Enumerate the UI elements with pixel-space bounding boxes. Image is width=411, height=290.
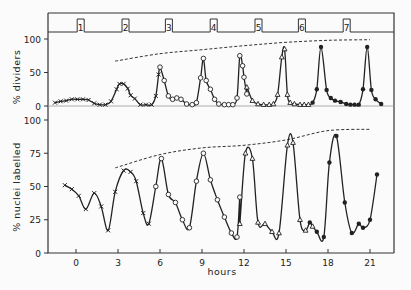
y-tick-label: 0 (35, 249, 41, 259)
x-tick-label: 9 (199, 258, 205, 268)
triangle-marker (291, 140, 296, 144)
o-marker (208, 178, 213, 183)
triangle-marker (292, 101, 297, 105)
filled-marker (350, 231, 354, 235)
triangle-marker (263, 221, 268, 225)
filled-marker (338, 100, 342, 104)
o-marker (231, 102, 236, 107)
chart-figure: 1234567 050100 0255075100036912151821 % … (0, 0, 411, 290)
filled-marker (357, 222, 361, 226)
o-marker (179, 97, 184, 102)
triangle-marker (256, 101, 261, 105)
pulse-label: 2 (123, 23, 129, 33)
x-tick-label: 0 (73, 258, 79, 268)
o-marker (159, 156, 164, 161)
o-marker (238, 195, 243, 200)
o-marker (217, 102, 222, 107)
filled-marker (348, 102, 352, 106)
o-marker (201, 151, 206, 156)
filled-marker (310, 100, 314, 104)
y-tick-label: 100 (24, 35, 41, 45)
filled-marker (334, 134, 338, 138)
o-marker (187, 225, 192, 230)
y-tick-label: 75 (30, 149, 41, 159)
o-marker (240, 64, 245, 69)
o-marker (215, 198, 220, 203)
pulse-label: 7 (344, 23, 350, 33)
pulse-line (48, 19, 394, 32)
filled-marker (357, 102, 361, 106)
x-marker (77, 194, 81, 198)
x-marker (129, 93, 133, 97)
o-marker (166, 192, 171, 197)
x-tick-label: 12 (238, 258, 249, 268)
x-tick-label: 18 (322, 258, 334, 268)
pulse-label: 6 (299, 23, 305, 33)
o-marker (173, 200, 178, 205)
triangle-marker (298, 217, 303, 221)
filled-marker (329, 96, 333, 100)
triangle-marker (275, 92, 280, 96)
filled-marker (319, 45, 323, 49)
o-marker (154, 184, 159, 189)
triangle-marker (285, 92, 290, 96)
o-marker (162, 78, 167, 83)
x-marker (84, 207, 88, 211)
filled-marker (361, 87, 365, 91)
triangle-marker (261, 102, 266, 106)
o-marker (235, 235, 240, 240)
pulse-label: 5 (256, 23, 262, 33)
x-tick-label: 3 (115, 258, 121, 268)
filled-marker (324, 88, 328, 92)
data-curve (65, 134, 377, 242)
filled-marker (322, 235, 326, 239)
filled-marker (361, 226, 365, 230)
x-marker (70, 187, 74, 191)
filled-marker (373, 97, 377, 101)
filled-marker (333, 98, 337, 102)
frame-border (48, 13, 394, 253)
triangle-marker (243, 151, 248, 155)
o-marker (180, 217, 185, 222)
x-tick-label: 15 (280, 258, 291, 268)
o-marker (194, 100, 199, 105)
o-marker (208, 87, 213, 92)
o-marker (238, 53, 243, 58)
pulse-label: 4 (211, 23, 217, 33)
o-marker (235, 96, 240, 101)
triangle-marker (250, 156, 255, 160)
y-tick-label: 50 (30, 68, 42, 78)
o-marker (194, 179, 199, 184)
y-tick-label: 0 (35, 102, 41, 112)
y-tick-label: 100 (24, 116, 41, 126)
x-marker (133, 97, 137, 101)
top-y-axis-label: % dividers (11, 50, 22, 105)
o-marker (229, 231, 234, 236)
o-marker (184, 102, 189, 107)
o-marker (158, 65, 163, 70)
envelope-dashed-line (115, 40, 370, 61)
filled-marker (327, 160, 331, 164)
filled-marker (375, 172, 379, 176)
triangle-marker (306, 102, 311, 106)
filled-marker (315, 87, 319, 91)
filled-marker (343, 200, 347, 204)
o-marker (198, 76, 203, 81)
triangle-marker (285, 143, 290, 147)
filled-marker (344, 102, 348, 106)
x-tick-label: 21 (364, 258, 375, 268)
chart-frame (48, 13, 394, 253)
x-marker (122, 169, 126, 173)
filled-marker (308, 220, 312, 224)
x-marker (129, 170, 133, 174)
filled-marker (365, 45, 369, 49)
pulse-markers: 1234567 (48, 19, 394, 33)
o-marker (242, 75, 247, 80)
pulse-label: 1 (78, 23, 84, 33)
pulse-label: 3 (166, 23, 172, 33)
filled-marker (369, 88, 373, 92)
o-marker (245, 92, 250, 97)
filled-marker (379, 102, 383, 106)
o-marker (212, 97, 217, 102)
x-tick-label: 6 (157, 258, 163, 268)
